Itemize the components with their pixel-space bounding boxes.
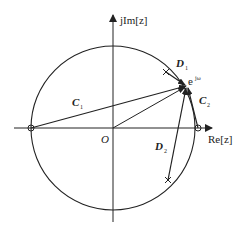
svg-text:e: e [188,75,193,87]
label-c2: C 2 [199,94,210,108]
svg-text:jω: jω [194,75,201,81]
label-c1: C 1 [72,96,83,110]
origin-label: O [101,133,109,145]
imag-axis-label: jIm[z] [119,14,147,26]
svg-text:C: C [199,94,207,106]
z-plane-diagram: jIm[z] Re[z] O e jω C 1 C 2 D 1 D 2 [0,0,247,232]
real-axis-label: Re[z] [208,133,232,145]
vector-c2 [188,88,198,128]
vector-d2 [168,88,186,180]
label-d1: D 1 [175,57,188,71]
svg-text:D: D [154,140,163,152]
vector-d1 [166,72,185,85]
svg-text:1: 1 [80,104,83,110]
svg-text:1: 1 [185,65,188,71]
svg-text:2: 2 [207,102,210,108]
vector-c1 [31,86,186,128]
point-label-ejw: e jω [188,75,201,87]
vector-origin [113,87,185,128]
label-d2: D 2 [154,140,167,154]
svg-text:D: D [175,57,184,69]
svg-text:C: C [72,96,80,108]
svg-text:2: 2 [164,148,167,154]
